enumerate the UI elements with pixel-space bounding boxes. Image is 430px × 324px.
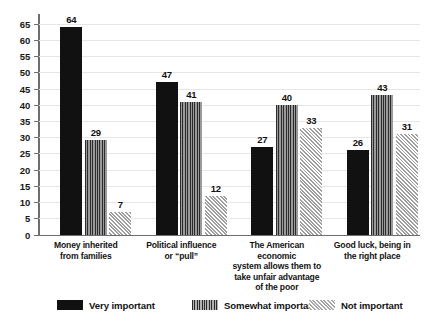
y-axis-tick xyxy=(34,40,38,41)
legend-label: Very important xyxy=(89,300,155,311)
chart-legend: Very importantSomewhat importantNot impo… xyxy=(0,297,430,319)
bar-value-label: 47 xyxy=(162,69,172,80)
category-label-line: or “pull” xyxy=(134,251,230,262)
gridline xyxy=(39,56,420,57)
category-label-line: from families xyxy=(38,251,134,262)
category-label-line: system allows them to xyxy=(229,261,325,272)
bar-value-label: 64 xyxy=(66,14,76,25)
category-label-line: Political influence xyxy=(134,240,230,251)
bar-somewhat-important: 41 xyxy=(180,102,202,235)
bar-value-label: 41 xyxy=(186,89,196,100)
y-axis-tick xyxy=(34,56,38,57)
legend-item-not-important[interactable]: Not important xyxy=(309,297,403,313)
category-label: Political influenceor “pull” xyxy=(134,240,230,261)
bar-somewhat-important: 29 xyxy=(85,140,107,234)
x-axis-line xyxy=(38,235,420,237)
gridline xyxy=(39,72,420,73)
gridline xyxy=(39,121,420,122)
bar-somewhat-important: 40 xyxy=(276,105,298,235)
y-axis-tick xyxy=(34,137,38,138)
bar-value-label: 29 xyxy=(91,127,101,138)
y-axis-label: 60 xyxy=(0,34,30,45)
bar-value-label: 12 xyxy=(211,183,221,194)
legend-label: Somewhat important xyxy=(224,300,317,311)
y-axis-tick xyxy=(34,153,38,154)
legend-swatch-icon xyxy=(192,300,218,310)
plot-area: 64297474112274033264331 xyxy=(38,14,420,236)
gridline xyxy=(39,24,420,25)
category-label-line: the right place xyxy=(325,251,421,262)
bar-value-label: 43 xyxy=(377,82,387,93)
category-label-line: Good luck, being in xyxy=(325,240,421,251)
category-label: Good luck, being inthe right place xyxy=(325,240,421,261)
bar-value-label: 27 xyxy=(257,134,267,145)
y-axis-label: 40 xyxy=(0,99,30,110)
category-label-line: take unfair advantage xyxy=(229,272,325,283)
bar-very-important: 64 xyxy=(60,27,82,235)
bar-not-important: 12 xyxy=(205,196,227,235)
y-axis-tick xyxy=(34,186,38,187)
bar-not-important: 33 xyxy=(300,128,322,235)
bar-value-label: 40 xyxy=(282,92,292,103)
bar-value-label: 31 xyxy=(402,121,412,132)
legend-item-somewhat-important[interactable]: Somewhat important xyxy=(192,297,317,313)
bar-value-label: 26 xyxy=(353,137,363,148)
legend-swatch-icon xyxy=(309,300,335,310)
y-axis-label: 5 xyxy=(0,213,30,224)
y-axis-label: 30 xyxy=(0,132,30,143)
y-axis-label: 25 xyxy=(0,148,30,159)
legend-item-very-important[interactable]: Very important xyxy=(57,297,155,313)
y-axis-tick xyxy=(34,105,38,106)
legend-swatch-icon xyxy=(57,300,83,310)
y-axis-label: 35 xyxy=(0,116,30,127)
category-label: Money inheritedfrom families xyxy=(38,240,134,261)
bar-not-important: 7 xyxy=(109,212,131,235)
y-axis-tick xyxy=(34,24,38,25)
bar-value-label: 33 xyxy=(306,115,316,126)
y-axis-tick xyxy=(34,121,38,122)
y-axis-label: 55 xyxy=(0,51,30,62)
y-axis-label: 50 xyxy=(0,67,30,78)
y-axis-tick xyxy=(34,72,38,73)
y-axis-label: 15 xyxy=(0,180,30,191)
gridline xyxy=(39,40,420,41)
bar-very-important: 47 xyxy=(156,82,178,234)
gridline xyxy=(39,89,420,90)
y-axis-label: 45 xyxy=(0,83,30,94)
y-axis-tick xyxy=(34,89,38,90)
category-label-line: of the poor xyxy=(229,282,325,293)
category-label-line: Money inherited xyxy=(38,240,134,251)
y-axis-label: 0 xyxy=(0,229,30,240)
bar-value-label: 7 xyxy=(118,199,123,210)
y-axis-tick xyxy=(34,202,38,203)
y-axis-label: 10 xyxy=(0,197,30,208)
category-label: The American economicsystem allows them … xyxy=(229,240,325,293)
bar-not-important: 31 xyxy=(396,134,418,235)
y-axis-tick xyxy=(34,218,38,219)
bar-chart: 64297474112274033264331 0510152025303540… xyxy=(0,0,430,324)
category-label-line: The American economic xyxy=(229,240,325,261)
y-axis-label: 20 xyxy=(0,164,30,175)
bar-very-important: 27 xyxy=(251,147,273,235)
bar-somewhat-important: 43 xyxy=(371,95,393,234)
gridline xyxy=(39,105,420,106)
bar-very-important: 26 xyxy=(347,150,369,234)
legend-label: Not important xyxy=(341,300,403,311)
y-axis-label: 65 xyxy=(0,18,30,29)
x-axis-category-labels: Money inheritedfrom familiesPolitical in… xyxy=(38,240,420,290)
y-axis-tick xyxy=(34,235,38,236)
y-axis-tick xyxy=(34,170,38,171)
